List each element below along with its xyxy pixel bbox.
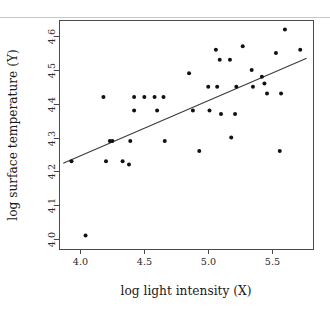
data-point: [163, 139, 167, 143]
data-point: [260, 75, 264, 79]
scatter-plot-figure: 4.04.14.24.34.44.54.6 4.04.55.05.5 log l…: [0, 0, 330, 310]
data-point: [251, 85, 255, 89]
data-point: [162, 95, 166, 99]
data-point: [127, 163, 131, 167]
data-point: [262, 81, 266, 85]
y-axis-ticks: 4.04.14.24.34.44.54.6: [46, 29, 61, 247]
data-point: [228, 58, 232, 62]
data-point: [142, 95, 146, 99]
y-tick-label: 4.2: [46, 164, 57, 179]
data-point: [153, 95, 157, 99]
data-point: [274, 51, 278, 55]
data-point: [250, 68, 254, 72]
x-tick-label: 5.5: [265, 256, 280, 267]
data-point: [101, 95, 105, 99]
data-point: [155, 109, 159, 113]
data-point: [298, 48, 302, 52]
y-tick-label: 4.3: [46, 131, 57, 146]
x-tick-label: 5.0: [201, 256, 216, 267]
data-point: [278, 149, 282, 153]
data-point: [229, 136, 233, 140]
y-tick-label: 4.6: [46, 29, 57, 44]
data-point: [84, 233, 88, 237]
regression-line: [63, 58, 306, 163]
y-tick-label: 4.0: [46, 232, 57, 247]
data-point: [215, 85, 219, 89]
y-tick-label: 4.4: [46, 97, 57, 112]
data-point: [279, 92, 283, 96]
data-point: [121, 159, 125, 163]
data-point: [265, 92, 269, 96]
data-point: [187, 71, 191, 75]
data-point: [219, 112, 223, 116]
data-point: [132, 95, 136, 99]
y-axis-title: log surface temperature (Y): [6, 49, 20, 221]
data-point: [241, 44, 245, 48]
x-tick-label: 4.5: [137, 256, 152, 267]
data-point: [283, 27, 287, 31]
data-point: [208, 109, 212, 113]
data-point: [70, 159, 74, 163]
y-tick-label: 4.1: [46, 198, 57, 213]
data-point: [191, 109, 195, 113]
y-tick-label: 4.5: [46, 63, 57, 78]
data-point: [110, 139, 114, 143]
data-point: [218, 58, 222, 62]
data-point: [206, 85, 210, 89]
data-point: [234, 85, 238, 89]
data-points-layer: [70, 27, 303, 237]
data-point: [128, 139, 132, 143]
data-point: [197, 149, 201, 153]
x-axis-title: log light intensity (X): [121, 284, 252, 298]
data-point: [132, 109, 136, 113]
plot-canvas: 4.04.14.24.34.44.54.6 4.04.55.05.5 log l…: [0, 0, 330, 310]
x-axis-ticks: 4.04.55.05.5: [73, 249, 280, 267]
data-point: [104, 159, 108, 163]
data-point: [214, 48, 218, 52]
data-point: [233, 112, 237, 116]
x-tick-label: 4.0: [73, 256, 88, 267]
